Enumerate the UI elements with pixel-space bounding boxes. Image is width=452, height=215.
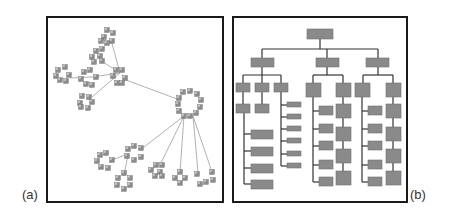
hierarchy-tree (0, 0, 452, 215)
